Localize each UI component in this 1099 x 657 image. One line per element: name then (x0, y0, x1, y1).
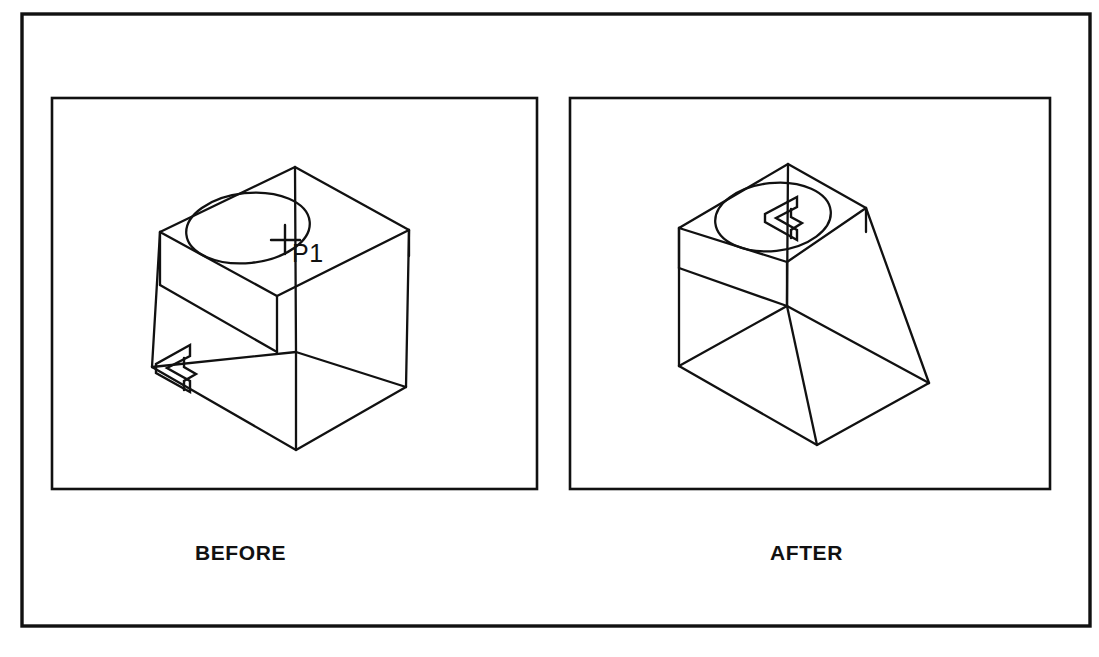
taper-right-before (406, 230, 409, 387)
panel-after-border (570, 98, 1050, 489)
base-outline-before (152, 367, 406, 450)
base-back-left-after (679, 306, 787, 366)
panel-after: AFTER (570, 98, 1050, 564)
solid-after (679, 164, 929, 445)
upper-left-lower-edge-after (679, 268, 787, 306)
solid-before (152, 167, 409, 450)
panel-before-border (52, 98, 537, 489)
taper-left-before (152, 232, 160, 367)
base-back-right-after (787, 306, 929, 383)
caption-before: BEFORE (195, 541, 286, 564)
outer-border (22, 14, 1090, 626)
point-label-p1: P1 (292, 239, 324, 267)
axis-marker-icon-before (156, 345, 196, 392)
figure-root: P1 BEFORE (0, 0, 1099, 657)
base-outline-after (679, 366, 929, 445)
front-face-seam-after (787, 306, 817, 445)
upper-left-lower-edge-before (160, 285, 277, 352)
technical-illustration-svg: P1 BEFORE (0, 0, 1099, 657)
axis-marker-icon-after (765, 197, 802, 240)
top-face-outline-after (679, 164, 866, 262)
base-back-right-before (296, 352, 406, 387)
taper-right-after (866, 208, 929, 383)
panel-before: P1 BEFORE (52, 98, 537, 564)
caption-after: AFTER (770, 541, 843, 564)
